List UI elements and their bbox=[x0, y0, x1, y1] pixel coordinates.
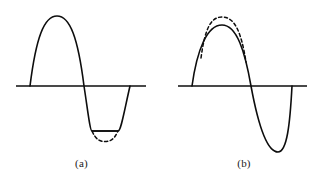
panel-a-dashed-undistorted-trough bbox=[92, 131, 118, 142]
panel-b-caption: (b) bbox=[163, 156, 325, 170]
figure-root: (a) (b) bbox=[0, 0, 325, 184]
panel-a-solid-clipped-waveform bbox=[30, 16, 130, 131]
panel-b: (b) bbox=[163, 0, 325, 184]
panel-b-solid-compressed-waveform bbox=[192, 25, 292, 152]
panel-a: (a) bbox=[0, 0, 163, 184]
panel-a-caption: (a) bbox=[0, 156, 163, 170]
